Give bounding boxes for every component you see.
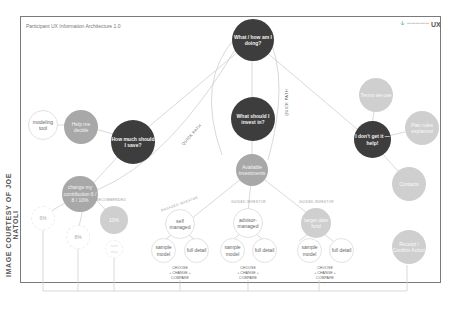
node-6-percent[interactable]: 6% bbox=[31, 206, 55, 230]
node-sample-model-1[interactable]: sample model bbox=[151, 238, 176, 263]
node-full-detail-3[interactable]: full detail bbox=[329, 238, 354, 263]
quick-path-label-2: QUICK PATH bbox=[284, 89, 289, 116]
node-self-managed[interactable]: self managed bbox=[165, 209, 195, 239]
choose-change-compare-2: CHOOSE + CHANGE + COMPARE ↑ bbox=[228, 266, 268, 286]
node-contacts[interactable]: Contacts bbox=[392, 167, 426, 201]
node-plan-rules-explained[interactable]: Plan rules explained bbox=[405, 111, 439, 145]
node-i-dont-get-it-help[interactable]: I don't get it — help! bbox=[354, 121, 391, 158]
node-sample-model-2[interactable]: sample model bbox=[220, 238, 245, 263]
node-modeling-tool[interactable]: modeling tool bbox=[28, 110, 58, 140]
node-sample-model-3[interactable]: sample model bbox=[297, 238, 322, 263]
node-what-how-am-i-doing[interactable]: What / how am I doing? bbox=[232, 19, 274, 61]
choose-change-compare-3: CHOOSE + CHANGE + COMPARE ↑ bbox=[305, 266, 345, 286]
node-what-should-i-invest-in[interactable]: What should I invest in? bbox=[231, 97, 275, 141]
arc-label-guided-investor-2: GUIDED INVESTOR bbox=[299, 200, 334, 204]
node-full-detail-1[interactable]: full detail bbox=[184, 238, 209, 263]
node-target-date-fund[interactable]: target date fund bbox=[301, 208, 331, 238]
node-8-percent[interactable]: 8% bbox=[66, 225, 90, 249]
node-full-detail-2[interactable]: full detail bbox=[252, 238, 277, 263]
arc-label-recommended: RECOMMENDED bbox=[96, 198, 126, 202]
node-receipt-confirm-action[interactable]: Receipt / Confirm Action bbox=[392, 230, 426, 264]
node-available-investments[interactable]: Available investments bbox=[236, 154, 268, 186]
node-help-me-decide[interactable]: Help me decide bbox=[64, 110, 98, 144]
node-change-contribution[interactable]: change my contribution 6 / 8 / 10% bbox=[62, 176, 98, 212]
node-how-much-should-i-save[interactable]: How much should I save? bbox=[111, 120, 155, 164]
node-advisor-managed[interactable]: advisor-managed bbox=[233, 208, 263, 238]
choose-change-compare-1: CHOOSE + CHANGE + COMPARE ↑ bbox=[160, 266, 200, 286]
node-10-percent-next: next step bbox=[105, 240, 123, 258]
node-terms-we-use[interactable]: Terms we use bbox=[359, 78, 393, 112]
node-10-percent[interactable]: 10% bbox=[100, 206, 128, 234]
arc-label-guided-investor: GUIDED INVESTOR bbox=[231, 200, 266, 204]
